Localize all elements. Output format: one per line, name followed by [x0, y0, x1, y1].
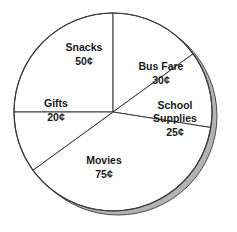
pie-label-school-supplies-value: 25¢ — [166, 126, 184, 138]
pie-label-bus-fare-name: Bus Fare — [139, 60, 184, 72]
pie-label-snacks-name: Snacks — [66, 41, 103, 53]
pie-chart-canvas: Snacks 50¢ Bus Fare 30¢ School Supplies … — [0, 0, 237, 232]
pie-label-movies-value: 75¢ — [95, 168, 113, 180]
pie-chart-figure: Snacks 50¢ Bus Fare 30¢ School Supplies … — [0, 0, 237, 232]
pie-label-movies-name: Movies — [86, 154, 122, 166]
pie-label-bus-fare-value: 30¢ — [152, 74, 170, 86]
pie-label-school-supplies-name-1: School — [157, 99, 192, 111]
pie-label-snacks-value: 50¢ — [75, 55, 93, 67]
pie-label-school-supplies-name-2: Supplies — [153, 112, 197, 124]
pie-label-gifts-name: Gifts — [44, 97, 68, 109]
pie-label-gifts-value: 20¢ — [47, 111, 65, 123]
